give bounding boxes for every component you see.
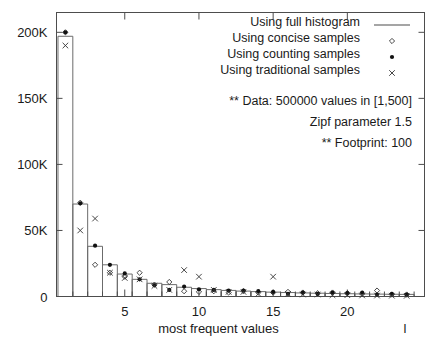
x-tick-label: 15 — [266, 304, 280, 319]
data-point-cross — [196, 274, 202, 280]
data-point-cross — [92, 216, 98, 222]
stray-mark: l — [404, 321, 407, 336]
data-point-diamond — [167, 279, 172, 284]
y-tick-label: 50K — [24, 223, 47, 238]
y-tick-label: 0 — [40, 290, 47, 305]
x-tick-label: 10 — [192, 304, 206, 319]
data-point-dot — [316, 292, 320, 296]
chart-figure: 050K100K150K200K5101520most frequent val… — [0, 0, 435, 343]
data-point-dot — [63, 30, 67, 34]
y-tick-label: 200K — [17, 25, 48, 40]
data-point-dot — [152, 283, 156, 287]
data-point-diamond — [137, 270, 142, 275]
annotation-line: ** Footprint: 100 — [322, 136, 412, 150]
data-point-cross — [270, 274, 276, 280]
chart-canvas: 050K100K150K200K5101520most frequent val… — [0, 0, 435, 343]
legend-label: Using counting samples — [227, 47, 360, 61]
annotation-line: Zipf parameter 1.5 — [310, 115, 412, 129]
data-point-dot — [93, 244, 97, 248]
legend-marker-diamond — [389, 38, 394, 43]
data-point-cross — [77, 228, 83, 234]
data-point-dot — [271, 290, 275, 294]
data-point-dot — [108, 263, 112, 267]
legend-label: Using full histogram — [250, 15, 360, 29]
data-point-dot — [197, 287, 201, 291]
histogram-bar — [73, 204, 88, 296]
data-point-dot — [123, 271, 127, 275]
legend-label: Using traditional samples — [220, 63, 360, 77]
x-tick-label: 20 — [340, 304, 354, 319]
data-point-cross — [181, 267, 187, 273]
data-point-dot — [182, 284, 186, 288]
chart-legend: Using full histogramUsing concise sample… — [220, 15, 410, 77]
histogram-bar — [58, 36, 73, 296]
data-point-diamond — [92, 262, 97, 267]
data-point-dot — [78, 201, 82, 205]
x-axis-title: most frequent values — [158, 321, 279, 336]
histogram-bar — [132, 279, 147, 296]
data-point-cross — [63, 43, 69, 49]
data-point-cross — [107, 270, 113, 276]
data-point-cross — [122, 275, 128, 281]
legend-label: Using concise samples — [232, 31, 360, 45]
chart-annotations: ** Data: 500000 values in [1,500]Zipf pa… — [229, 94, 412, 150]
x-tick-label: 5 — [121, 304, 128, 319]
data-point-diamond — [182, 289, 187, 294]
annotation-line: ** Data: 500000 values in [1,500] — [229, 94, 412, 108]
data-point-diamond — [374, 288, 379, 293]
legend-marker-dot — [390, 55, 394, 59]
y-tick-label: 150K — [17, 91, 48, 106]
y-tick-label: 100K — [17, 157, 48, 172]
legend-marker-cross — [389, 70, 395, 76]
histogram-bar — [88, 246, 103, 296]
